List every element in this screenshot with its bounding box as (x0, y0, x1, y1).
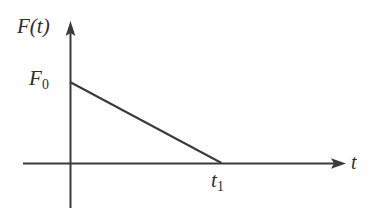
figure-canvas: F(t) F0 t1 t (0, 0, 372, 214)
x-intercept-base: t (211, 168, 217, 192)
y-intercept-label: F0 (29, 68, 49, 92)
x-intercept-subscript: 1 (217, 179, 224, 194)
x-intercept-label: t1 (211, 170, 224, 194)
plot-graphics (0, 0, 372, 214)
force-decay-line (70, 82, 222, 163)
x-axis-label: t (351, 152, 357, 172)
y-intercept-subscript: 0 (42, 77, 49, 92)
y-axis-label: F(t) (17, 16, 50, 37)
y-intercept-base: F (29, 66, 42, 90)
